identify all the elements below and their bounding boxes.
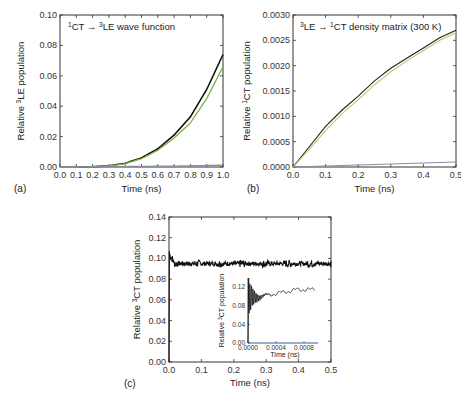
x-tick-label: 0.3 — [103, 170, 116, 180]
x-tick-label: 0.5 — [450, 170, 461, 180]
y-tick-label: 0.0025 — [262, 35, 290, 45]
inset-series-line — [248, 278, 315, 343]
x-tick-label: 0.6 — [152, 170, 165, 180]
plot-frame — [60, 15, 223, 167]
panel-a: 0.00.10.20.30.40.50.60.70.80.91.00.000.0… — [14, 10, 229, 194]
y-tick-label: 0.0010 — [262, 111, 290, 121]
y-tick-label: 0.0030 — [262, 10, 290, 20]
y-tick-label: 0.02 — [148, 336, 166, 346]
y-tick-label: 0.0005 — [262, 137, 290, 147]
x-tick-label: 0.4 — [292, 365, 305, 375]
panel-label: (c) — [124, 378, 136, 389]
inset-y-tick-label: 0.08 — [232, 302, 245, 309]
x-axis-label: Time (ns) — [355, 183, 395, 194]
y-tick-label: 0.14 — [148, 212, 166, 222]
y-tick-label: 0.10 — [39, 10, 57, 20]
y-tick-label: 0.04 — [39, 101, 57, 111]
x-tick-label: 0.2 — [86, 170, 99, 180]
inset-y-axis-label: Relative 3CT population — [218, 274, 227, 348]
y-tick-label: 0.06 — [39, 71, 57, 81]
x-tick-label: 1.0 — [217, 170, 230, 180]
x-tick-label: 0.7 — [168, 170, 181, 180]
y-tick-label: 0.0015 — [262, 86, 290, 96]
x-tick-label: 0.4 — [417, 170, 430, 180]
x-tick-label: 0.1 — [70, 170, 83, 180]
inset-chart: 0.000.040.080.120.00000.00040.0008Relati… — [218, 274, 319, 359]
x-tick-label: 0.1 — [319, 170, 332, 180]
inset-x-axis-label: Time (ns) — [270, 351, 299, 359]
x-tick-label: 0.8 — [184, 170, 197, 180]
inset-x-tick-label: 0.0000 — [238, 344, 258, 351]
y-axis-label: Relative 3CT population — [131, 240, 143, 340]
y-tick-label: 0.04 — [148, 316, 166, 326]
y-axis-label: Relative 3LE population — [15, 42, 27, 141]
inset-y-tick-label: 0.04 — [232, 321, 245, 328]
y-tick-label: 0.00 — [39, 162, 57, 172]
inset-x-tick-label: 0.0008 — [294, 344, 314, 351]
y-tick-label: 0.12 — [148, 233, 166, 243]
x-tick-label: 0.2 — [228, 365, 241, 375]
chart-title: 3LE → 1CT density matrix (300 K) — [300, 21, 441, 33]
x-tick-label: 0.2 — [352, 170, 365, 180]
y-tick-label: 0.0020 — [262, 61, 290, 71]
series-line-gray-baseline — [293, 162, 456, 167]
series-line-black — [293, 30, 456, 167]
series-line-yellow-green — [293, 33, 456, 167]
panel-label: (b) — [247, 183, 259, 194]
y-tick-label: 0.08 — [39, 40, 57, 50]
y-tick-label: 0.02 — [39, 132, 57, 142]
inset-x-tick-label: 0.0004 — [266, 344, 286, 351]
panel-c: 0.00.10.20.30.40.50.000.020.040.060.080.… — [124, 212, 337, 389]
chart-title: 1CT → 3LE wave function — [68, 21, 175, 33]
figure: 0.00.10.20.30.40.50.60.70.80.91.00.000.0… — [0, 0, 461, 405]
inset-y-tick-label: 0.12 — [232, 283, 245, 290]
x-tick-label: 0.5 — [325, 365, 338, 375]
y-tick-label: 0.0000 — [262, 162, 290, 172]
y-tick-label: 0.00 — [148, 357, 166, 367]
panel-label: (a) — [14, 183, 26, 194]
x-tick-label: 0.9 — [200, 170, 213, 180]
series-line-green — [60, 67, 223, 167]
y-tick-label: 0.08 — [148, 274, 166, 284]
x-tick-label: 0.1 — [195, 365, 208, 375]
x-axis-label: Time (ns) — [230, 377, 270, 388]
y-axis-label: Relative 1CT population — [241, 41, 253, 141]
panel-b: 0.00.10.20.30.40.50.00000.00050.00100.00… — [241, 10, 461, 194]
y-tick-label: 0.10 — [148, 253, 166, 263]
x-tick-label: 0.5 — [135, 170, 148, 180]
x-tick-label: 0.4 — [119, 170, 132, 180]
plot-frame — [293, 15, 456, 167]
x-tick-label: 0.3 — [385, 170, 398, 180]
x-tick-label: 0.3 — [260, 365, 273, 375]
y-tick-label: 0.06 — [148, 295, 166, 305]
x-axis-label: Time (ns) — [122, 183, 162, 194]
